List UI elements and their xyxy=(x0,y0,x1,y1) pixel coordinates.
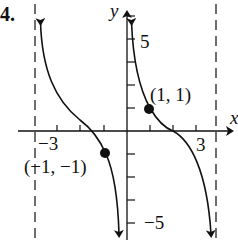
x-axis-label: x xyxy=(229,107,238,128)
y-axis-label: y xyxy=(108,0,119,21)
point-label-1-1: (1, 1) xyxy=(150,84,191,106)
x-tick-label-3: 3 xyxy=(196,134,206,155)
point-label-neg1-neg1: (−1, −1) xyxy=(24,156,87,178)
y-tick-label-neg5: −5 xyxy=(144,212,164,233)
curve-right-branch xyxy=(132,22,212,234)
graph-canvas: 4. y x −3 3 5 −5 (1, 1) (−1, −1) xyxy=(0,0,238,242)
point-1-1 xyxy=(144,104,154,114)
x-tick-label-neg3: −3 xyxy=(38,133,58,154)
point-neg1-neg1 xyxy=(100,148,110,158)
problem-number: 4. xyxy=(0,3,15,25)
y-tick-label-5: 5 xyxy=(140,31,150,52)
